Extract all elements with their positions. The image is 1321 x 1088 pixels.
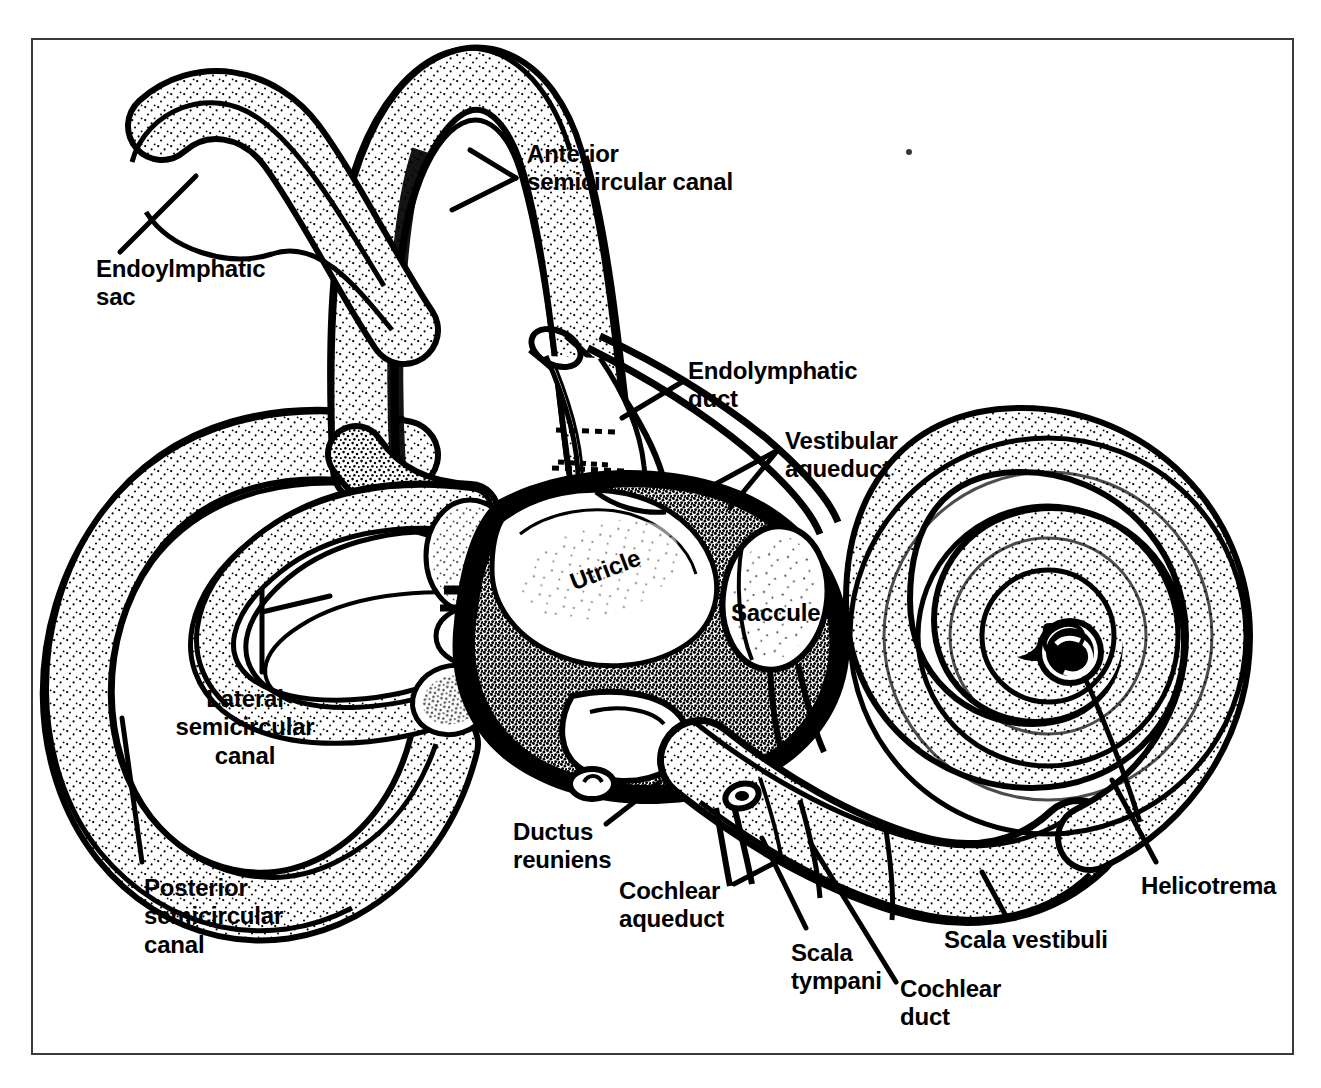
label-scala-vestibuli: Scala vestibuli — [944, 926, 1108, 954]
label-anterior-semicircular-canal: Anterior semicircular canal — [527, 140, 733, 197]
label-endolymphatic-sac: Endoylmphatic sac — [96, 255, 265, 312]
label-saccule: Saccule — [731, 599, 820, 627]
label-cochlear-aqueduct: Cochlear aqueduct — [619, 877, 724, 934]
label-vestibular-aqueduct: Vestibular aqueduct — [785, 427, 898, 484]
label-scala-tympani: Scala tympani — [791, 939, 882, 996]
label-posterior-semicircular-canal: Posterior semicircular canal — [144, 874, 283, 959]
anatomy-figure: Endoylmphatic sac Anterior semicircular … — [0, 0, 1321, 1088]
label-helicotrema: Helicotrema — [1141, 872, 1276, 900]
label-endolymphatic-duct: Endolymphatic duct — [688, 357, 857, 414]
label-cochlear-duct: Cochlear duct — [900, 975, 1001, 1032]
label-ductus-reuniens: Ductus reuniens — [513, 818, 611, 875]
label-lateral-semicircular-canal: Lateral semicircular canal — [130, 685, 360, 770]
